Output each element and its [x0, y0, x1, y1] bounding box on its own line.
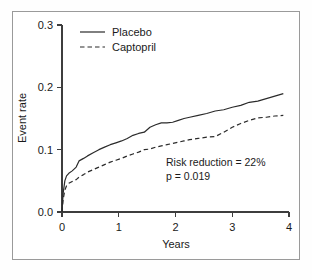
- annotation-risk-reduction: Risk reduction = 22%: [166, 156, 266, 168]
- x-axis-ticks: 01234: [59, 212, 292, 233]
- chart-annotation: Risk reduction = 22% p = 0.019: [166, 156, 266, 182]
- y-tick-label: 0.0: [38, 206, 53, 218]
- y-axis-ticks: 0.00.10.20.3: [38, 19, 62, 218]
- chart-canvas: 0.00.10.20.3 01234 Event rate Years Plac…: [0, 0, 312, 280]
- x-tick-label: 4: [286, 221, 292, 233]
- y-tick-label: 0.3: [38, 19, 53, 31]
- y-tick-label: 0.2: [38, 81, 53, 93]
- x-tick-label: 2: [172, 221, 178, 233]
- annotation-p-value: p = 0.019: [166, 170, 210, 182]
- data-series-group: [62, 94, 283, 212]
- x-tick-label: 3: [229, 221, 235, 233]
- figure-root: 0.00.10.20.3 01234 Event rate Years Plac…: [0, 0, 312, 280]
- chart-legend: Placebo Captopril: [80, 26, 156, 53]
- y-axis-title: Event rate: [16, 93, 28, 143]
- x-axis-title: Years: [162, 238, 190, 250]
- legend-label-captopril: Captopril: [112, 41, 156, 53]
- x-tick-label: 1: [116, 221, 122, 233]
- x-tick-label: 0: [59, 221, 65, 233]
- legend-label-placebo: Placebo: [112, 26, 152, 38]
- y-tick-label: 0.1: [38, 144, 53, 156]
- series-placebo: [62, 94, 283, 212]
